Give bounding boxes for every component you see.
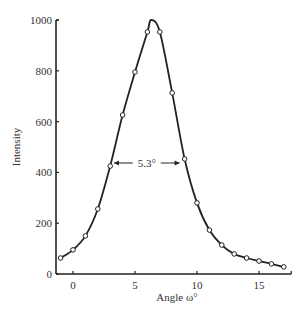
data-point [108, 164, 113, 169]
y-tick-label: 1000 [30, 14, 53, 26]
x-tick-label: 10 [192, 279, 204, 291]
data-point [220, 243, 225, 248]
data-point [133, 70, 138, 75]
data-point [145, 30, 150, 35]
data-point [182, 157, 187, 162]
data-curve [61, 20, 284, 267]
data-point [269, 262, 274, 267]
fwhm-annotation: 5.3° [114, 157, 180, 169]
y-tick-label: 200 [36, 217, 53, 229]
x-tick-label: 5 [132, 279, 138, 291]
x-tick-label: 15 [254, 279, 266, 291]
y-tick-label: 0 [47, 268, 53, 280]
chart-svg: 02004006008001000051015 5.3° Angle ω° In… [0, 0, 305, 316]
y-tick-label: 400 [36, 166, 53, 178]
data-point [244, 256, 249, 261]
data-point [232, 252, 237, 257]
fwhm-label: 5.3° [138, 157, 156, 169]
data-markers [58, 30, 286, 270]
data-point [120, 113, 125, 118]
y-tick-label: 600 [36, 116, 53, 128]
data-point [58, 256, 63, 261]
axes: 02004006008001000051015 [30, 14, 291, 291]
data-point [282, 265, 287, 270]
y-tick-label: 800 [36, 65, 53, 77]
x-tick-label: 0 [70, 279, 76, 291]
data-point [83, 234, 88, 239]
chart: 02004006008001000051015 5.3° Angle ω° In… [0, 0, 305, 316]
data-point [170, 91, 175, 96]
data-point [158, 30, 163, 35]
intensity-curve [61, 20, 284, 267]
y-axis-label: Intensity [10, 127, 22, 166]
data-point [71, 248, 76, 253]
data-point [195, 201, 200, 206]
x-axis-label: Angle ω° [156, 291, 197, 303]
data-point [207, 228, 212, 233]
data-point [96, 207, 101, 212]
data-point [257, 259, 262, 264]
